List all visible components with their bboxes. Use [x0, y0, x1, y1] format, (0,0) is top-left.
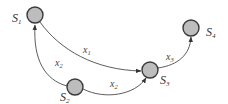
- node-label-s1: S1: [12, 11, 22, 26]
- edge-label-s3-s4: x3: [165, 51, 174, 63]
- edge-label-s2-s1: x2: [54, 57, 63, 69]
- node-s4: [183, 20, 199, 36]
- edge-label-s2-s3: x2: [109, 78, 118, 90]
- node-s3: [142, 62, 158, 78]
- node-label-s3: S3: [160, 73, 170, 88]
- edge-s3-s4: [158, 37, 191, 68]
- edge-label-s1-s3: x1: [82, 44, 91, 56]
- node-s1: [27, 7, 43, 23]
- edge-s2-s1: [35, 25, 67, 86]
- node-s2: [67, 79, 83, 95]
- node-label-s4: S4: [206, 25, 216, 40]
- graph-canvas: S1 S2 S3 S4 x1 x2 x2 x3: [0, 0, 228, 104]
